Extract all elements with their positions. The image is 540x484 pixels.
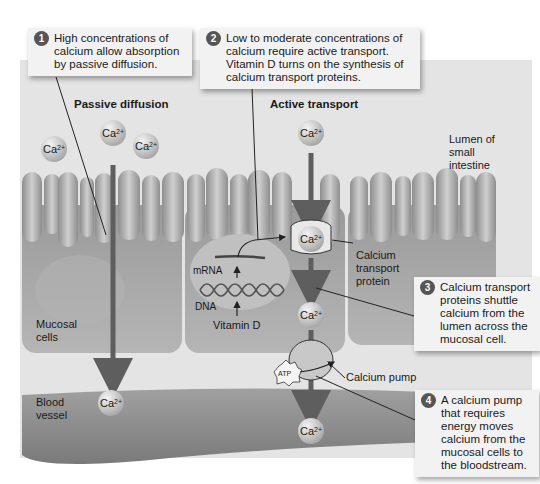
callout-1: 1 High concentrations of calcium allow a…: [28, 28, 192, 76]
callout-1-text: High concentrations of calcium allow abs…: [54, 32, 184, 71]
calcium-ion: Ca2+: [100, 120, 126, 146]
atp-label: ATP: [278, 367, 291, 380]
callout-4: 4 A calcium pump that requires energy mo…: [415, 390, 539, 477]
step-badge-2: 2: [206, 31, 221, 46]
calcium-ion: Ca2+: [41, 136, 67, 162]
callout-4-text: A calcium pump that requires energy move…: [441, 394, 531, 472]
calcium-ion: Ca2+: [298, 302, 324, 328]
calcium-ion-blood: Ca2+: [98, 390, 124, 416]
callout-2: 2 Low to moderate concentrations of calc…: [200, 28, 420, 89]
active-transport-heading: Active transport: [270, 98, 358, 111]
dna-label: DNA: [195, 300, 216, 313]
callout-3: 3 Calcium transport proteins shuttle cal…: [414, 277, 540, 351]
calcium-ion: Ca2+: [133, 133, 159, 159]
calcium-ion-blood: Ca2+: [298, 418, 324, 444]
mrna-label: mRNA: [193, 264, 222, 277]
blood-vessel-label: Blood vessel: [36, 396, 76, 422]
callout-3-text: Calcium transport proteins shuttle calci…: [440, 281, 532, 346]
step-badge-4: 4: [421, 393, 436, 408]
lumen-label: Lumen of small intestine: [449, 133, 509, 172]
vitamin-d-label: Vitamin D: [213, 319, 260, 332]
calcium-pump-label: Calcium pump: [346, 371, 416, 384]
mucosal-cells-label: Mucosal cells: [36, 318, 86, 344]
passive-diffusion-heading: Passive diffusion: [74, 98, 169, 111]
calcium-ion: Ca2+: [298, 120, 324, 146]
calcium-ion-in-protein: Ca2+: [298, 226, 324, 252]
callout-2-text: Low to moderate concentrations of calciu…: [226, 32, 412, 84]
transport-protein-label: Calcium transport protein: [356, 249, 436, 288]
step-badge-1: 1: [34, 31, 49, 46]
